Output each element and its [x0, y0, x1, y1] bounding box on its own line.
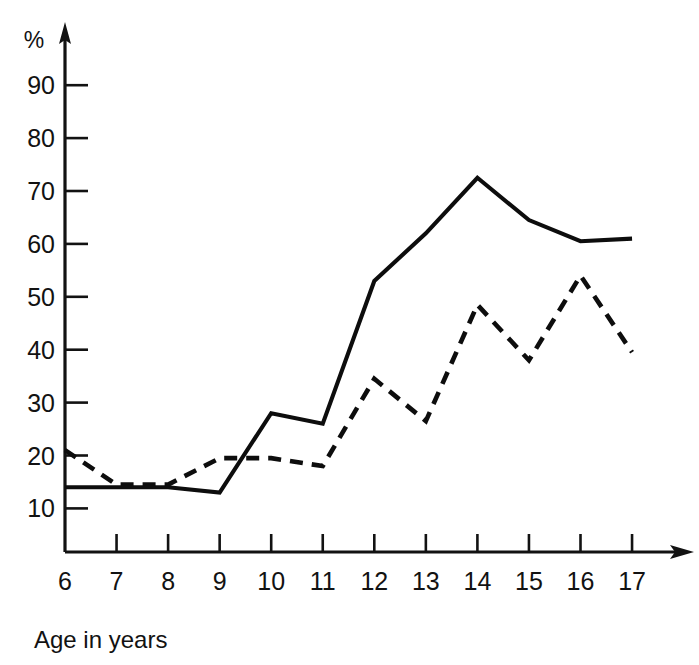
y-tick-label: 50 [27, 283, 55, 311]
x-tick-label: 10 [257, 567, 285, 595]
y-tick-label: 80 [27, 124, 55, 152]
x-tick-label: 15 [515, 567, 543, 595]
x-tick-label: 7 [110, 567, 124, 595]
x-axis-caption: Age in years [34, 626, 167, 653]
y-tick-label: 30 [27, 389, 55, 417]
y-tick-label: 40 [27, 336, 55, 364]
axes-group [59, 22, 694, 559]
chart-canvas: % 102030405060708090 6789101112131415161… [0, 0, 699, 665]
y-tick-label: 20 [27, 442, 55, 470]
data-line-dashed [65, 276, 632, 485]
x-tick-label: 14 [463, 567, 491, 595]
x-tick-label: 8 [161, 567, 175, 595]
y-axis-unit-label: % [24, 27, 44, 53]
y-tick-label: 10 [27, 494, 55, 522]
x-tick-label: 12 [360, 567, 388, 595]
data-line-solid [65, 178, 632, 493]
y-tick-label: 70 [27, 177, 55, 205]
y-axis-ticks-group: 102030405060708090 [27, 71, 88, 522]
x-tick-label: 17 [618, 567, 646, 595]
x-axis-ticks-group: 67891011121314151617 [58, 534, 646, 595]
line-chart-figure: % 102030405060708090 6789101112131415161… [0, 0, 699, 665]
x-tick-label: 13 [412, 567, 440, 595]
y-tick-label: 90 [27, 71, 55, 99]
x-tick-label: 9 [213, 567, 227, 595]
y-tick-label: 60 [27, 230, 55, 258]
x-tick-label: 11 [310, 567, 336, 595]
x-tick-label: 6 [58, 567, 72, 595]
x-tick-label: 16 [567, 567, 595, 595]
